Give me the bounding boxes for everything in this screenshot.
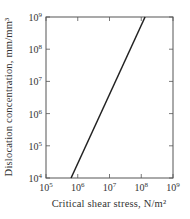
y-tick-label: 107 [29,75,43,87]
x-tick-label: 107 [103,181,117,193]
y-tick-label: 106 [29,108,43,120]
y-tick-label: 105 [29,140,43,152]
x-tick-label: 108 [135,181,149,193]
y-axis-label: Dislocation concentration, mm/mm³ [3,18,14,177]
x-tick-label: 106 [71,181,85,193]
x-axis-ticks: 105106107108109 [39,17,180,193]
data-series [71,17,145,178]
x-axis-label: Critical shear stress, N/m² [52,198,167,209]
data-line [71,17,145,178]
x-tick-label: 109 [166,181,180,193]
plot-frame [46,17,173,178]
chart: 105106107108109 104105106107108109 Criti… [0,0,190,219]
y-tick-label: 109 [29,11,43,23]
y-axis-ticks: 104105106107108109 [29,11,174,184]
y-tick-label: 108 [29,43,43,55]
x-tick-label: 105 [39,181,53,193]
plot-area-border [46,17,173,178]
